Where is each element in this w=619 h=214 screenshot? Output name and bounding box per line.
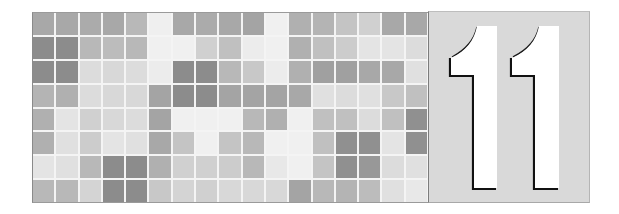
mosaic-tile bbox=[149, 109, 170, 131]
mosaic-tile bbox=[382, 132, 403, 154]
mosaic-tile bbox=[289, 61, 310, 83]
mosaic-tile bbox=[103, 156, 124, 178]
mosaic-tile bbox=[382, 180, 403, 202]
mosaic-tile bbox=[243, 13, 264, 35]
mosaic-tile bbox=[406, 13, 427, 35]
mosaic-tile bbox=[382, 156, 403, 178]
mosaic-tile bbox=[80, 156, 101, 178]
mosaic-tile bbox=[219, 156, 240, 178]
mosaic-tile bbox=[313, 132, 334, 154]
mosaic-tile bbox=[359, 85, 380, 107]
mosaic-tile bbox=[33, 132, 54, 154]
mosaic-tile bbox=[173, 180, 194, 202]
mosaic-tile bbox=[406, 109, 427, 131]
mosaic-tile bbox=[406, 132, 427, 154]
mosaic-tile bbox=[336, 61, 357, 83]
mosaic-tile bbox=[33, 156, 54, 178]
mosaic-tile bbox=[196, 109, 217, 131]
mosaic-tile bbox=[266, 37, 287, 59]
mosaic-tile bbox=[196, 37, 217, 59]
mosaic-tile bbox=[33, 85, 54, 107]
digit-one-first bbox=[450, 26, 497, 189]
mosaic-tile bbox=[382, 109, 403, 131]
mosaic-tile bbox=[243, 180, 264, 202]
mosaic-tile bbox=[196, 156, 217, 178]
mosaic-tile bbox=[359, 37, 380, 59]
mosaic-tile bbox=[219, 132, 240, 154]
mosaic-tile bbox=[243, 132, 264, 154]
mosaic-tile bbox=[243, 37, 264, 59]
mosaic-tile bbox=[243, 85, 264, 107]
mosaic-tile bbox=[149, 37, 170, 59]
mosaic-tile bbox=[336, 37, 357, 59]
mosaic-tile bbox=[149, 180, 170, 202]
mosaic-tile bbox=[313, 109, 334, 131]
mosaic-tile bbox=[406, 180, 427, 202]
mosaic-tile bbox=[336, 156, 357, 178]
mosaic-tile bbox=[359, 61, 380, 83]
mosaic-tile bbox=[359, 156, 380, 178]
mosaic-tile bbox=[406, 37, 427, 59]
mosaic-tile bbox=[219, 85, 240, 107]
mosaic-tile bbox=[406, 61, 427, 83]
digit-one-second bbox=[511, 26, 559, 189]
mosaic-tile bbox=[336, 180, 357, 202]
mosaic-tile bbox=[126, 37, 147, 59]
mosaic-tile bbox=[266, 109, 287, 131]
mosaic-tile bbox=[173, 61, 194, 83]
mosaic-tile bbox=[196, 85, 217, 107]
mosaic-tile bbox=[56, 61, 77, 83]
mosaic-tile bbox=[219, 180, 240, 202]
mosaic-tile bbox=[219, 109, 240, 131]
mosaic-tile bbox=[126, 61, 147, 83]
mosaic-tile bbox=[289, 180, 310, 202]
mosaic-tile bbox=[126, 13, 147, 35]
mosaic-tile bbox=[266, 156, 287, 178]
mosaic-tile bbox=[103, 85, 124, 107]
mosaic-tile bbox=[103, 13, 124, 35]
mosaic-tile bbox=[266, 85, 287, 107]
mosaic-tile bbox=[126, 85, 147, 107]
mosaic-tile bbox=[33, 13, 54, 35]
mosaic-tile bbox=[103, 61, 124, 83]
mosaic-tile bbox=[173, 85, 194, 107]
mosaic-tile bbox=[406, 85, 427, 107]
mosaic-tile bbox=[313, 61, 334, 83]
mosaic-tile bbox=[313, 37, 334, 59]
chapter-number-panel: 11 bbox=[428, 11, 590, 203]
mosaic-tile bbox=[336, 85, 357, 107]
mosaic-tile bbox=[359, 13, 380, 35]
chapter-number-graphic bbox=[429, 12, 591, 204]
mosaic-tile bbox=[219, 13, 240, 35]
mosaic-tile bbox=[289, 156, 310, 178]
mosaic-tile bbox=[196, 180, 217, 202]
mosaic-tile bbox=[56, 109, 77, 131]
mosaic-tile bbox=[406, 156, 427, 178]
mosaic-tile bbox=[359, 109, 380, 131]
mosaic-tile bbox=[289, 37, 310, 59]
mosaic-tile bbox=[149, 61, 170, 83]
mosaic-tile bbox=[196, 61, 217, 83]
mosaic-tile bbox=[382, 37, 403, 59]
mosaic-tile bbox=[56, 180, 77, 202]
mosaic-tile bbox=[80, 85, 101, 107]
mosaic-tile bbox=[173, 156, 194, 178]
mosaic-tile bbox=[33, 61, 54, 83]
mosaic-tile bbox=[289, 85, 310, 107]
mosaic-tile bbox=[289, 13, 310, 35]
mosaic-tile bbox=[33, 180, 54, 202]
mosaic-tile bbox=[266, 132, 287, 154]
mosaic-tile bbox=[313, 85, 334, 107]
mosaic-tile bbox=[126, 180, 147, 202]
mosaic-tile bbox=[56, 156, 77, 178]
mosaic-tile bbox=[56, 13, 77, 35]
mosaic-tile bbox=[149, 156, 170, 178]
mosaic-tile bbox=[126, 109, 147, 131]
mosaic-tile bbox=[173, 13, 194, 35]
mosaic-tile bbox=[196, 13, 217, 35]
mosaic-tile bbox=[80, 109, 101, 131]
mosaic-tile bbox=[313, 13, 334, 35]
mosaic-tile bbox=[56, 132, 77, 154]
mosaic-tile bbox=[382, 85, 403, 107]
mosaic-tile bbox=[80, 61, 101, 83]
